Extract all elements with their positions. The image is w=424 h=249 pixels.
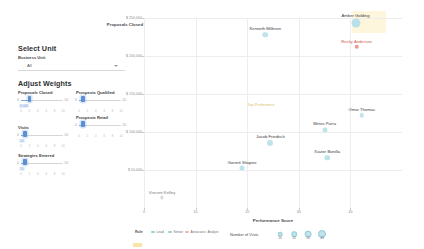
scatter-point[interactable] bbox=[263, 32, 269, 38]
slider-track[interactable] bbox=[79, 125, 121, 126]
slider-tick: 0 bbox=[78, 134, 80, 138]
gridline-horizontal bbox=[144, 56, 402, 57]
slider-readout: 10 bbox=[19, 167, 25, 171]
x-axis-tick-mark bbox=[350, 208, 351, 210]
x-axis-tick-label: 20 bbox=[245, 210, 249, 214]
slider-handle[interactable] bbox=[81, 121, 85, 128]
y-axis-tick-mark bbox=[142, 94, 144, 95]
slider-track[interactable] bbox=[79, 100, 121, 101]
slider-tick: 2 bbox=[87, 134, 89, 138]
y-axis-tick-label: $ 50,000 bbox=[128, 168, 142, 172]
slider-handle[interactable] bbox=[28, 96, 32, 103]
x-axis-tick-label: 0 bbox=[143, 210, 145, 214]
slider-handle[interactable] bbox=[23, 131, 27, 138]
y-axis-tick-mark bbox=[142, 132, 144, 133]
size-legend-item: 20 bbox=[288, 228, 300, 240]
x-axis-tick-label: 40 bbox=[348, 210, 352, 214]
gridline-vertical bbox=[196, 18, 197, 208]
y-axis-tick-label: $ 150,000 bbox=[126, 92, 142, 96]
chart-annotation: Top Performers bbox=[247, 102, 274, 107]
business-unit-label: Business Unit bbox=[18, 55, 45, 60]
scatter-point[interactable] bbox=[354, 45, 359, 50]
y-axis-title: Proposals Closed bbox=[102, 22, 148, 27]
size-legend-value: 20 bbox=[292, 236, 296, 240]
x-axis-tick-mark bbox=[247, 208, 248, 210]
slider-handle[interactable] bbox=[23, 159, 27, 166]
slider-tick: 8 bbox=[54, 144, 56, 148]
slider-min: 0 bbox=[75, 123, 77, 127]
x-axis-tick-mark bbox=[299, 208, 300, 210]
corner-swatch bbox=[133, 243, 142, 247]
slider-max: 10 bbox=[64, 133, 68, 137]
slider-tick: 4 bbox=[37, 172, 39, 176]
size-legend-value: 40 bbox=[320, 236, 324, 240]
size-legend-item: 10 bbox=[274, 228, 286, 240]
slider-handle[interactable] bbox=[81, 96, 85, 103]
slider-tick: 10 bbox=[119, 109, 122, 113]
slider-tick: 6 bbox=[103, 109, 105, 113]
scatter-point[interactable] bbox=[267, 140, 273, 146]
select-unit-title: Select Unit bbox=[18, 44, 56, 53]
slider-tick: 10 bbox=[61, 172, 64, 176]
adjust-weights-title: Adjust Weights bbox=[18, 79, 72, 88]
slider-tick: 4 bbox=[37, 109, 39, 113]
slider-ticks: 0246810 bbox=[21, 172, 63, 176]
slider-tick: 8 bbox=[112, 134, 114, 138]
gridline-vertical bbox=[350, 18, 351, 208]
slider-min: 0 bbox=[17, 98, 19, 102]
slider-track[interactable] bbox=[21, 163, 63, 164]
role-legend-label: Senior bbox=[174, 230, 184, 234]
y-axis-tick-mark bbox=[142, 170, 144, 171]
slider-min: 0 bbox=[17, 133, 19, 137]
gridline-vertical bbox=[144, 18, 145, 208]
slider-ticks: 0246810 bbox=[21, 144, 63, 148]
slider-track[interactable] bbox=[21, 135, 63, 136]
scatter-chart: $ 250,000$ 200,000$ 150,000$ 100,000$ 50… bbox=[133, 0, 424, 249]
slider-tick: 2 bbox=[87, 109, 89, 113]
size-legend-title: Number of Visits bbox=[230, 232, 258, 237]
x-axis-tick-label: 30 bbox=[297, 210, 301, 214]
slider-tick: 6 bbox=[45, 109, 47, 113]
slider-tick: 2 bbox=[29, 109, 31, 113]
business-unit-select[interactable]: All bbox=[18, 62, 125, 71]
slider-tick: 0 bbox=[20, 109, 22, 113]
slider-tick: 10 bbox=[61, 109, 64, 113]
slider-label: Prospects Retail bbox=[76, 115, 108, 120]
role-legend-swatch bbox=[185, 231, 189, 233]
slider-tick: 2 bbox=[29, 172, 31, 176]
gridline-vertical bbox=[247, 18, 248, 208]
slider-label: Proposals Closed bbox=[18, 90, 53, 95]
role-legend-swatch bbox=[168, 231, 172, 233]
y-axis-tick-mark bbox=[142, 56, 144, 57]
slider-tick: 8 bbox=[112, 109, 114, 113]
size-legend-value: 10 bbox=[278, 236, 282, 240]
scatter-point-label: Amber Golding bbox=[342, 13, 370, 18]
scatter-point-label: Xavier Bonilla bbox=[314, 149, 340, 154]
scatter-point[interactable] bbox=[240, 166, 245, 171]
slider-max: 10 bbox=[122, 123, 126, 127]
scatter-point-label: Garrett Shapiro bbox=[228, 160, 257, 165]
x-axis-tick-mark bbox=[144, 208, 145, 210]
gridline-vertical bbox=[299, 18, 300, 208]
slider-tick: 0 bbox=[20, 144, 22, 148]
size-legend-item: 40 bbox=[316, 228, 328, 240]
slider-ticks: 0246810 bbox=[79, 109, 121, 113]
slider-tick: 0 bbox=[78, 109, 80, 113]
scatter-point[interactable] bbox=[324, 155, 330, 161]
scatter-point[interactable] bbox=[322, 127, 327, 132]
x-axis-title: Performance Score bbox=[144, 218, 402, 223]
plot-area: $ 250,000$ 200,000$ 150,000$ 100,000$ 50… bbox=[144, 18, 402, 208]
role-legend-swatch bbox=[202, 231, 206, 233]
slider-tick: 8 bbox=[54, 109, 56, 113]
role-legend-label: Lead bbox=[157, 230, 164, 234]
scatter-point[interactable] bbox=[351, 19, 360, 28]
role-legend-swatch bbox=[151, 231, 155, 233]
scatter-point[interactable] bbox=[160, 196, 163, 199]
scatter-point[interactable] bbox=[360, 113, 365, 118]
business-unit-value: All bbox=[27, 63, 32, 68]
role-legend-title: Role bbox=[135, 230, 143, 234]
slider-min: 0 bbox=[75, 98, 77, 102]
role-legend-label: Analyst bbox=[208, 230, 219, 234]
gridline-horizontal bbox=[144, 132, 402, 133]
slider-tick: 10 bbox=[61, 144, 64, 148]
